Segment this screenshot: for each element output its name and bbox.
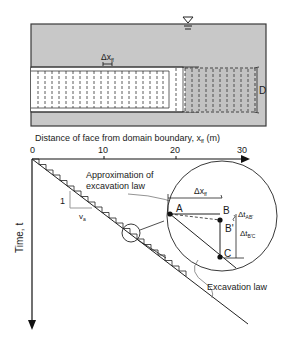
x-axis-arrow-icon — [241, 155, 250, 163]
x-tick-20: 20 — [170, 145, 180, 155]
depth-label: D — [259, 85, 266, 96]
point-c-label: C — [224, 248, 231, 259]
zoom-connector-upper — [140, 221, 164, 230]
point-a-marker — [167, 211, 172, 216]
point-a-label: A — [176, 203, 183, 214]
y-axis-title: Time, t — [14, 223, 25, 253]
slope-va-label: va — [79, 212, 86, 222]
zoom-region-circle — [122, 224, 140, 242]
x-axis-ticks: 0 10 20 30 — [30, 145, 247, 155]
y-axis-arrow-icon — [28, 320, 36, 330]
x-axis-title: Distance of face from domain boundary, x… — [35, 133, 220, 144]
soil-domain-panel: D Δxff — [31, 17, 266, 126]
x-tick-30: 30 — [237, 145, 247, 155]
slope-one-label: 1 — [60, 196, 65, 206]
point-b-label: B — [223, 205, 230, 216]
diagram-canvas: D Δxff Distance of face from domain boun… — [0, 0, 290, 345]
zoom-connector-lower — [138, 240, 166, 258]
point-c-marker — [217, 254, 222, 259]
approx-label-line2: excavation law — [86, 181, 146, 191]
inset-magnified-view: Δxff A B B' C ΔtAB' ΔtB'C — [167, 161, 277, 271]
excavation-law-label: Excavation law — [207, 282, 268, 292]
point-b-prime-marker — [217, 217, 222, 222]
approx-label-line1: Approximation of — [86, 170, 154, 180]
x-tick-10: 10 — [98, 145, 108, 155]
x-tick-0: 0 — [30, 145, 35, 155]
point-b-prime-label: B' — [225, 223, 234, 234]
